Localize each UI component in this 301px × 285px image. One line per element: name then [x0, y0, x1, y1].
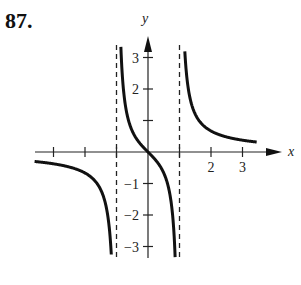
- y-axis-arrow-icon: [144, 36, 152, 52]
- x-tick-label: 3: [239, 160, 246, 175]
- y-tick-label: −3: [124, 240, 139, 255]
- y-tick-label: 3: [132, 51, 139, 66]
- y-axis-label: y: [140, 11, 149, 26]
- x-tick-label: 2: [208, 160, 215, 175]
- y-tick-label: −1: [124, 177, 139, 192]
- y-tick-label: 2: [132, 82, 139, 97]
- x-axis-label: x: [287, 144, 295, 159]
- y-tick-label: −2: [124, 208, 139, 223]
- rational-function-graph: xy23−3−2−123: [0, 0, 301, 285]
- curve-right-branch: [185, 51, 257, 142]
- x-axis-arrow-icon: [266, 148, 282, 156]
- curve-left-branch: [35, 161, 112, 254]
